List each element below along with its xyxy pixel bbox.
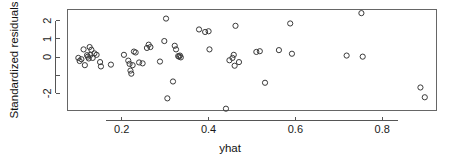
x-tick-label: 0.8 <box>375 123 390 135</box>
data-point <box>418 85 423 90</box>
data-point <box>163 16 168 21</box>
data-point <box>82 63 87 68</box>
data-point <box>133 50 138 55</box>
data-point <box>422 95 427 100</box>
data-point <box>165 96 170 101</box>
data-point <box>289 51 294 56</box>
x-tick-label: 0.2 <box>114 123 129 135</box>
data-point <box>360 54 365 59</box>
data-point <box>129 71 134 76</box>
y-axis-title: Standardized residuals <box>8 1 20 118</box>
data-point <box>233 23 238 28</box>
data-point <box>162 38 167 43</box>
y-tick-label: 0 <box>41 54 53 60</box>
data-point <box>231 52 236 57</box>
axis-lines <box>56 21 399 121</box>
data-point <box>121 52 126 57</box>
x-tick-label: 0.6 <box>288 123 303 135</box>
y-tick-labels: -2012 <box>41 18 53 98</box>
chart-canvas: 0.20.40.60.8 -2012 yhat Standardized res… <box>0 0 454 162</box>
data-point <box>262 80 267 85</box>
data-point <box>81 47 86 52</box>
data-point <box>137 60 142 65</box>
data-point <box>288 21 293 26</box>
residual-scatter-plot: 0.20.40.60.8 -2012 yhat Standardized res… <box>0 0 454 162</box>
data-point <box>276 48 281 53</box>
data-point <box>196 27 201 32</box>
data-point <box>236 59 241 64</box>
x-axis-title: yhat <box>219 142 242 154</box>
y-tick-label: 2 <box>41 18 53 24</box>
data-point <box>140 61 145 66</box>
x-tick-label: 0.4 <box>201 123 216 135</box>
data-point <box>170 79 175 84</box>
y-tick-label: -2 <box>41 88 53 98</box>
data-point <box>108 62 113 67</box>
data-point <box>206 29 211 34</box>
y-axis-ticks <box>56 21 60 94</box>
data-point <box>207 47 212 52</box>
data-point <box>126 58 131 63</box>
x-axis-ticks <box>122 117 382 121</box>
x-tick-labels: 0.20.40.60.8 <box>114 123 390 135</box>
y-tick-label: 1 <box>41 36 53 42</box>
data-points-layer <box>76 11 428 112</box>
data-point <box>257 49 262 54</box>
plot-frame <box>68 10 437 111</box>
data-point <box>359 11 364 16</box>
data-point <box>344 53 349 58</box>
data-point <box>157 59 162 64</box>
